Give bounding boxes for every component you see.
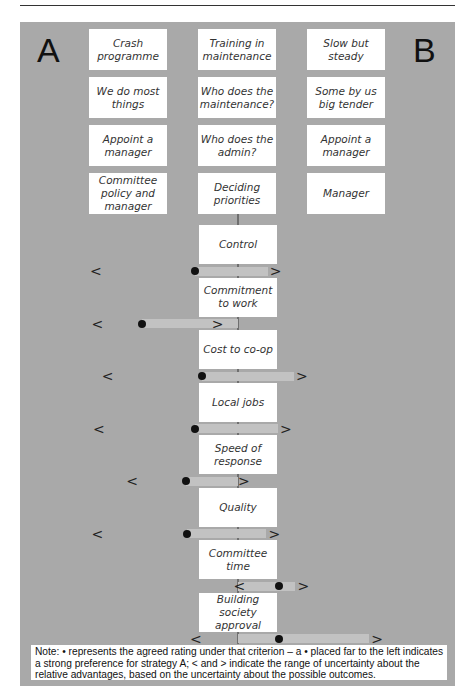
criterion-box: Quality xyxy=(199,488,277,527)
uncertainty-high-marker: > xyxy=(270,264,282,278)
agreed-rating-dot xyxy=(275,582,283,590)
uncertainty-low-marker: < xyxy=(126,474,138,488)
uncertainty-low-marker: < xyxy=(91,317,103,331)
uncertainty-band xyxy=(238,582,295,591)
uncertainty-low-marker: < xyxy=(234,579,246,593)
issue-box: Who does the admin? xyxy=(198,125,276,166)
uncertainty-band xyxy=(238,634,369,643)
uncertainty-band xyxy=(195,424,278,433)
strategy-a-option: We do most things xyxy=(89,77,167,118)
issue-box: Deciding priorities xyxy=(198,173,276,214)
top-rule xyxy=(20,5,455,6)
uncertainty-low-marker: < xyxy=(102,369,114,383)
uncertainty-band xyxy=(187,529,266,538)
criterion-box: Control xyxy=(199,225,277,264)
strategy-a-label: A xyxy=(37,33,60,67)
strategy-a-option: Crash programme xyxy=(89,29,167,70)
uncertainty-high-marker: > xyxy=(280,422,292,436)
issue-box: Training in maintenance xyxy=(198,29,276,70)
uncertainty-high-marker: > xyxy=(212,317,224,331)
strategy-b-option: Slow but steady xyxy=(307,29,385,70)
uncertainty-band xyxy=(195,267,268,276)
uncertainty-band xyxy=(202,372,294,381)
criterion-box: Local jobs xyxy=(199,383,277,422)
uncertainty-high-marker: > xyxy=(238,474,250,488)
agreed-rating-dot xyxy=(138,320,146,328)
agreed-rating-dot xyxy=(198,372,206,380)
uncertainty-high-marker: > xyxy=(268,527,280,541)
strategy-b-label: B xyxy=(413,33,436,67)
uncertainty-low-marker: < xyxy=(93,422,105,436)
uncertainty-low-marker: < xyxy=(91,527,103,541)
issue-box: Who does the maintenance? xyxy=(198,77,276,118)
uncertainty-high-marker: > xyxy=(297,579,309,593)
strategy-b-option: Some by us big tender xyxy=(307,77,385,118)
uncertainty-high-marker: > xyxy=(296,369,308,383)
criterion-box: Cost to co-op xyxy=(199,330,277,369)
uncertainty-low-marker: < xyxy=(190,632,202,646)
strategy-a-option: Appoint a manager xyxy=(89,125,167,166)
criterion-box: Committee time xyxy=(199,540,277,579)
criterion-box: Speed of response xyxy=(199,435,277,474)
strategy-b-option: Appoint a manager xyxy=(307,125,385,166)
note-text: Note: • represents the agreed rating und… xyxy=(31,645,447,680)
agreed-rating-dot xyxy=(182,477,190,485)
uncertainty-band xyxy=(142,319,238,328)
uncertainty-low-marker: < xyxy=(90,264,102,278)
agreed-rating-dot xyxy=(183,530,191,538)
strategy-b-option: Manager xyxy=(307,173,385,214)
agreed-rating-dot xyxy=(191,425,199,433)
agreed-rating-dot xyxy=(191,267,199,275)
criterion-box: Building society approval xyxy=(199,593,277,632)
uncertainty-high-marker: > xyxy=(371,632,383,646)
criterion-box: Commitment to work xyxy=(199,278,277,317)
uncertainty-band xyxy=(186,477,238,486)
agreed-rating-dot xyxy=(275,635,283,643)
strategy-a-option: Committee policy and manager xyxy=(89,173,167,214)
